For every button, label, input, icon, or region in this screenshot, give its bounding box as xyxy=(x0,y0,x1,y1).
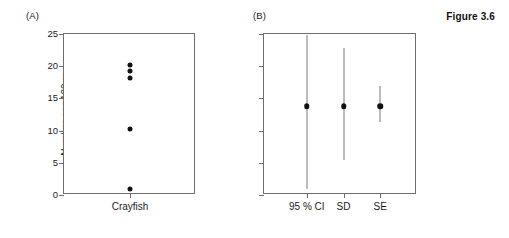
panel-b-label: (B) xyxy=(253,10,266,21)
x-axis-tick-label-sd: SD xyxy=(337,201,351,212)
y-axis-tick xyxy=(59,66,64,67)
y-axis-tick xyxy=(259,98,264,99)
figure-title: Figure 3.6 xyxy=(446,11,495,22)
x-axis-tick xyxy=(130,193,131,198)
y-axis-tick-labels: 0510152025 xyxy=(34,33,58,194)
y-axis-tick xyxy=(59,163,64,164)
panel-b-plot-area: 95 % CISDSE xyxy=(264,34,415,193)
panel-a-plot: Crayfish xyxy=(63,33,195,194)
y-axis-tick-label: 5 xyxy=(53,156,58,167)
y-axis-tick xyxy=(259,163,264,164)
y-axis-tick-label: 20 xyxy=(47,60,58,71)
x-axis-tick-label-95-ci: 95 % CI xyxy=(289,201,325,212)
y-axis-title-container: Number per 100 m xyxy=(10,33,30,194)
y-axis-tick xyxy=(259,34,264,35)
y-axis-tick xyxy=(59,195,64,196)
x-axis-tick xyxy=(344,193,345,198)
y-axis-tick-label: 10 xyxy=(47,124,58,135)
data-point xyxy=(128,62,133,67)
x-axis-tick-label-crayfish: Crayfish xyxy=(112,201,149,212)
y-axis-tick-label: 0 xyxy=(53,189,58,200)
mean-marker xyxy=(304,103,310,109)
y-axis-tick xyxy=(59,131,64,132)
x-axis-tick xyxy=(307,193,308,198)
y-axis-tick-label: 25 xyxy=(47,28,58,39)
panel-b-plot: 95 % CISDSE xyxy=(263,33,416,194)
error-bar xyxy=(306,35,307,188)
data-point xyxy=(128,187,133,192)
y-axis-tick xyxy=(259,66,264,67)
x-axis-tick xyxy=(380,193,381,198)
mean-marker xyxy=(378,103,384,109)
data-point xyxy=(128,127,133,132)
y-axis-tick xyxy=(59,34,64,35)
y-axis-tick-label: 15 xyxy=(47,92,58,103)
mean-marker xyxy=(341,103,347,109)
panel-a-plot-area: Crayfish xyxy=(64,34,194,193)
data-point xyxy=(128,75,133,80)
figure-container: (A) (B) Figure 3.6 Number per 100 m 0510… xyxy=(0,0,509,238)
y-axis-tick xyxy=(59,98,64,99)
y-axis-tick xyxy=(259,195,264,196)
y-axis-tick xyxy=(259,131,264,132)
panel-a-label: (A) xyxy=(26,10,39,21)
x-axis-tick-label-se: SE xyxy=(374,201,387,212)
data-point xyxy=(128,69,133,74)
